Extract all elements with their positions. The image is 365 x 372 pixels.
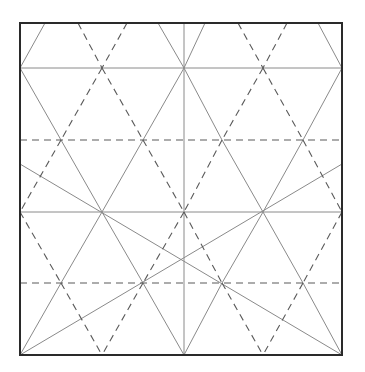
crease-pattern-diagram — [0, 0, 365, 372]
background — [0, 0, 365, 372]
crease-pattern-canvas — [0, 0, 365, 372]
